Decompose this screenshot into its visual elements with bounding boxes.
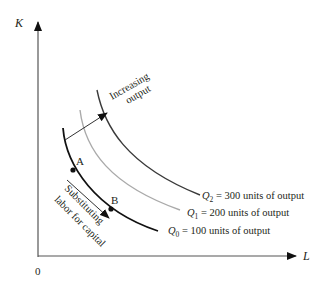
isoquant-q2 [97,90,200,195]
q2-label: Q2 = 300 units of output [202,190,304,204]
q0-label: Q0 = 100 units of output [168,225,270,239]
y-axis-label: K [14,16,24,30]
isoquant-diagram: K L 0 Increasing output Substituting lab… [0,0,327,287]
point-a-label: A [76,155,84,167]
origin-label: 0 [35,265,41,277]
point-b [108,206,113,211]
point-b-label: B [111,194,118,206]
q1-label: Q1 = 200 units of output [187,207,289,221]
isoquant-q1 [80,110,180,210]
point-a [70,167,75,172]
x-axis-label: L [302,249,310,263]
